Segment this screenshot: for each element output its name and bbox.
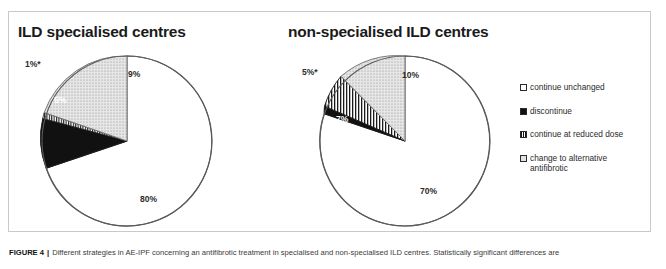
legend-item-label: continue at reduced dose (530, 129, 623, 140)
chart-legend: continue unchanged discontinue continue … (520, 82, 645, 187)
solid-black-square-icon (520, 108, 527, 115)
pie-chart-non-specialised-ild: 10% 5%* 7% 70% (310, 52, 500, 230)
figure-caption: FIGURE 4|Different strategies in AE-IPF … (9, 248, 659, 258)
pie-label-reduced-dose: 1%* (25, 59, 41, 69)
figure-caption-separator: | (47, 248, 49, 258)
pie-label-continue-unchanged: 70% (420, 186, 437, 196)
chart-title-ild-specialised: ILD specialised centres (18, 23, 186, 41)
figure-4-container: ILD specialised centres (0, 0, 666, 269)
empty-square-icon (520, 84, 527, 91)
pie-chart-ild-specialised: 9% 1%* 5% 80% (32, 52, 222, 230)
pie-label-continue-unchanged: 80% (140, 194, 157, 204)
legend-item-label: discontinue (530, 106, 572, 117)
figure-caption-text: Different strategies in AE-IPF concernin… (52, 248, 559, 257)
legend-item-change-to-alternative-antifibrotic: change to alternative antifibrotic (520, 153, 645, 174)
pie-label-alternative-antifibrotic: 10% (402, 70, 419, 80)
figure-caption-label: FIGURE 4 (9, 248, 44, 257)
legend-item-label: change to alternative antifibrotic (530, 153, 645, 174)
chart-title-non-specialised-ild: non-specialised ILD centres (288, 23, 488, 41)
pie-label-alternative-antifibrotic: 9% (128, 69, 140, 79)
legend-item-label: continue unchanged (530, 82, 605, 93)
hatched-square-icon (520, 131, 527, 138)
legend-item-discontinue: discontinue (520, 106, 645, 117)
pie-label-discontinue: 7% (336, 114, 348, 124)
dotted-square-icon (520, 155, 527, 162)
legend-item-continue-unchanged: continue unchanged (520, 82, 645, 93)
pie-label-reduced-dose: 5%* (302, 67, 318, 77)
legend-item-continue-at-reduced-dose: continue at reduced dose (520, 129, 645, 140)
pie-label-discontinue: 5% (54, 95, 66, 105)
